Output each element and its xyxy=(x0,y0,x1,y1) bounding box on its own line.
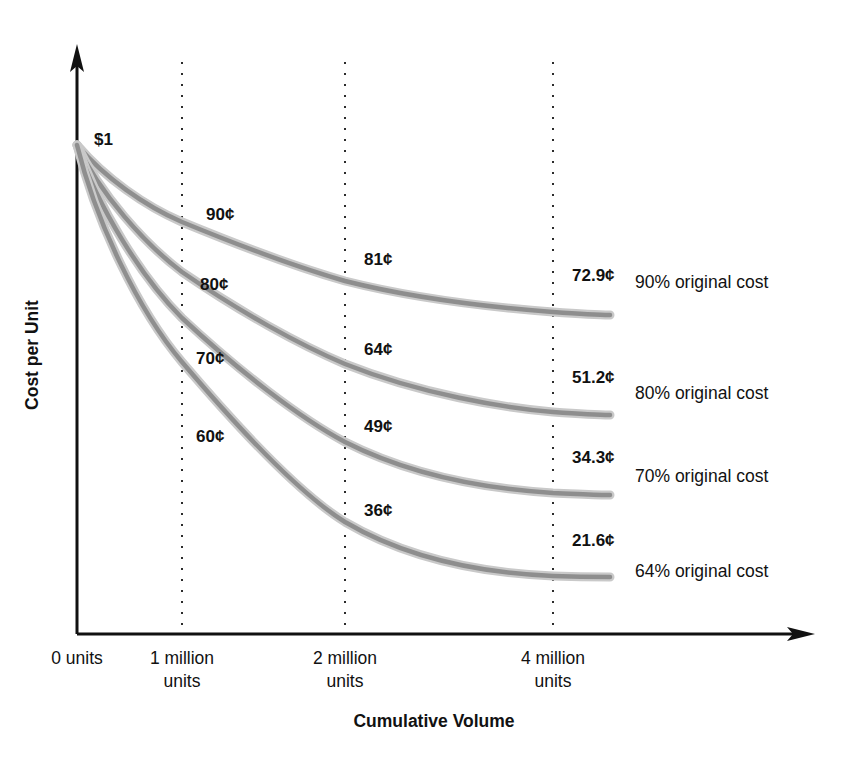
curve-70-percent-line xyxy=(77,145,610,495)
legend-item-90-percent: 90% original cost xyxy=(635,272,768,292)
point-label-90-at-4m: 72.9¢ xyxy=(572,266,615,285)
point-label-90-at-1m: 90¢ xyxy=(206,205,235,224)
point-label-70-at-1m: 70¢ xyxy=(196,349,225,368)
point-label-90-at-2m: 81¢ xyxy=(364,250,393,269)
x-axis-title: Cumulative Volume xyxy=(353,711,514,731)
x-tick-label-1-million-line1: 1 million xyxy=(150,648,214,668)
point-labels-4-million: 72.9¢ 51.2¢ 34.3¢ 21.6¢ xyxy=(572,266,615,550)
curves-group xyxy=(77,145,610,577)
point-label-70-at-2m: 49¢ xyxy=(364,417,393,436)
curve-70-percent xyxy=(77,145,610,495)
legend-item-80-percent: 80% original cost xyxy=(635,383,768,403)
point-label-64-at-1m: 60¢ xyxy=(196,427,225,446)
point-label-70-at-4m: 34.3¢ xyxy=(572,448,615,467)
axes-group xyxy=(70,44,815,641)
x-tick-label-1-million-line2: units xyxy=(164,671,201,691)
legend-group: 90% original cost 80% original cost 70% … xyxy=(635,272,768,581)
learning-curve-chart: $1 90¢ 80¢ 70¢ 60¢ 81¢ 64¢ 49¢ 36¢ 72.9¢… xyxy=(0,0,858,760)
x-tick-label-0-units-line1: 0 units xyxy=(51,648,103,668)
y-axis-title: Cost per Unit xyxy=(22,300,42,410)
point-label-80-at-1m: 80¢ xyxy=(200,275,229,294)
x-tick-label-4-million-line1: 4 million xyxy=(521,648,585,668)
x-tick-label-2-million-line2: units xyxy=(327,671,364,691)
x-tick-labels-group: 0 units 1 million units 2 million units … xyxy=(51,648,585,691)
legend-item-64-percent: 64% original cost xyxy=(635,561,768,581)
point-label-80-at-4m: 51.2¢ xyxy=(572,368,615,387)
point-label-80-at-2m: 64¢ xyxy=(364,340,393,359)
point-label-64-at-4m: 21.6¢ xyxy=(572,531,615,550)
x-tick-label-4-million-line2: units xyxy=(535,671,572,691)
y-start-label: $1 xyxy=(94,130,113,149)
point-label-64-at-2m: 36¢ xyxy=(364,501,393,520)
legend-item-70-percent: 70% original cost xyxy=(635,466,768,486)
chart-canvas: $1 90¢ 80¢ 70¢ 60¢ 81¢ 64¢ 49¢ 36¢ 72.9¢… xyxy=(0,0,858,760)
x-tick-label-2-million-line1: 2 million xyxy=(313,648,377,668)
